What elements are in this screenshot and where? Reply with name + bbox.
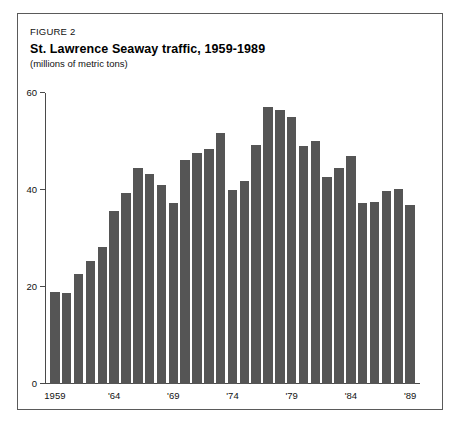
x-tick-label-1984: '84: [345, 390, 357, 401]
bar-1965: [121, 193, 130, 384]
x-tick-label-1979: '79: [285, 390, 297, 401]
bar-1962: [86, 261, 95, 384]
bar-1985: [358, 203, 367, 384]
x-tick-label-1969: '69: [167, 390, 179, 401]
y-tick-label: 0: [32, 378, 37, 389]
chart-subtitle: (millions of metric tons): [30, 58, 128, 69]
bar-1974: [228, 190, 237, 384]
chart-title: St. Lawrence Seaway traffic, 1959-1989: [30, 42, 265, 56]
bar-1963: [98, 247, 107, 384]
bar-1987: [382, 191, 391, 384]
bar-1983: [334, 168, 343, 384]
y-tick-label: 20: [26, 281, 37, 292]
x-tick-label-1989: '89: [404, 390, 416, 401]
bar-1967: [145, 174, 154, 384]
bar-1961: [74, 274, 83, 384]
y-tick-mark: [40, 189, 45, 190]
figure-label: FIGURE 2: [30, 26, 75, 37]
bar-1968: [157, 185, 166, 384]
y-tick-0: 0: [45, 383, 46, 384]
y-tick-60: 60: [45, 92, 46, 93]
bar-1960: [62, 293, 71, 384]
y-tick-mark: [40, 286, 45, 287]
bar-1964: [109, 211, 118, 384]
y-tick-label: 60: [26, 87, 37, 98]
x-tick-label-1959: 1959: [44, 390, 65, 401]
bar-1976: [251, 145, 260, 384]
y-tick-20: 20: [45, 286, 46, 287]
bar-1977: [263, 107, 272, 384]
y-tick-label: 40: [26, 184, 37, 195]
y-axis-line: [45, 93, 46, 384]
y-tick-mark: [40, 383, 45, 384]
y-tick-40: 40: [45, 189, 46, 190]
bar-1986: [370, 202, 379, 384]
bar-1973: [216, 133, 225, 384]
x-tick-label-1974: '74: [226, 390, 238, 401]
bar-1966: [133, 168, 142, 384]
bar-1972: [204, 149, 213, 384]
bar-1982: [322, 177, 331, 384]
bar-1978: [275, 110, 284, 384]
bar-1970: [180, 160, 189, 384]
bar-1989: [405, 205, 414, 384]
bar-1969: [169, 203, 178, 384]
bar-1988: [394, 189, 403, 384]
bar-1984: [346, 156, 355, 384]
y-tick-mark: [40, 92, 45, 93]
plot-area: 0204060 1959'64'69'74'79'84'89: [45, 93, 420, 384]
bar-1975: [240, 181, 249, 384]
bar-1981: [311, 141, 320, 384]
bar-1971: [192, 153, 201, 384]
bar-1979: [287, 117, 296, 384]
bar-series: [49, 93, 420, 384]
bar-1959: [50, 292, 59, 384]
x-tick-label-1964: '64: [108, 390, 120, 401]
bar-1980: [299, 146, 308, 384]
